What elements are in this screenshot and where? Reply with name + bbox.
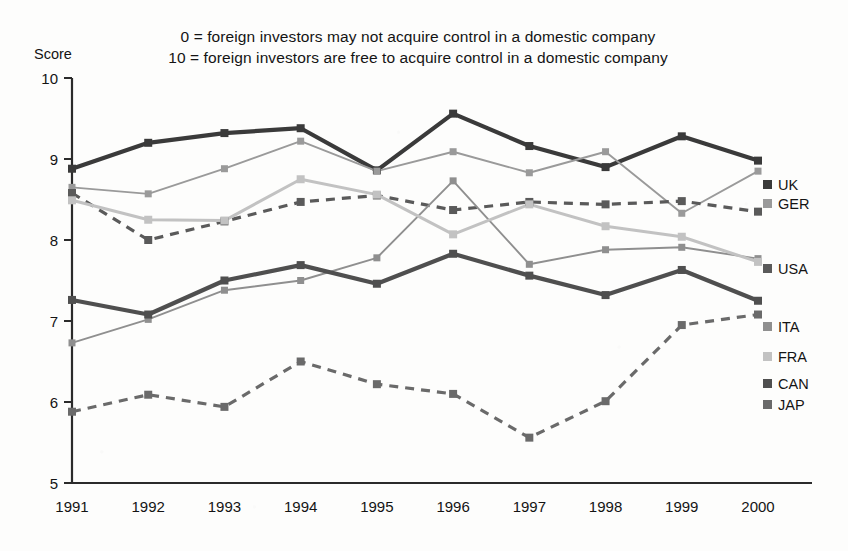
y-tick-label: 5: [50, 475, 58, 492]
marker-can-1992: [144, 311, 152, 319]
marker-uk-1992: [144, 139, 152, 147]
marker-ger-1995: [373, 168, 380, 175]
series-line-can: [72, 254, 758, 315]
series-label-ita: ITA: [778, 319, 800, 335]
marker-usa-1998: [602, 200, 610, 208]
marker-ita-1993: [221, 287, 228, 294]
legend-swatch-fra: [763, 352, 772, 361]
marker-uk-1998: [602, 163, 610, 171]
marker-ita-1995: [373, 254, 380, 261]
marker-ger-1999: [678, 210, 685, 217]
marker-ita-1996: [450, 177, 457, 184]
marker-fra-1993: [220, 217, 228, 225]
marker-uk-1991: [68, 165, 76, 173]
x-tick-label: 1999: [665, 498, 698, 515]
x-tick-label: 1994: [284, 498, 317, 515]
marker-uk-1994: [297, 124, 305, 132]
x-tick-label: 1992: [132, 498, 165, 515]
marker-ita-1994: [297, 277, 304, 284]
series-label-fra: FRA: [778, 349, 807, 365]
marker-uk-1999: [678, 132, 686, 140]
legend-swatch-ger: [763, 199, 772, 208]
marker-ger-1996: [450, 148, 457, 155]
marker-uk-1996: [449, 110, 457, 118]
marker-fra-1998: [602, 222, 610, 230]
marker-ger-1998: [602, 148, 609, 155]
series-label-usa: USA: [778, 261, 808, 277]
marker-fra-1999: [678, 233, 686, 241]
marker-uk-2000: [754, 157, 762, 165]
y-tick-label: 8: [50, 232, 58, 249]
x-tick-label: 1993: [208, 498, 241, 515]
marker-can-2000: [754, 297, 762, 305]
marker-jap-1999: [678, 321, 686, 329]
chart-page: 0 = foreign investors may not acquire co…: [0, 0, 848, 551]
marker-jap-1997: [525, 434, 533, 442]
x-tick-label: 1991: [55, 498, 88, 515]
marker-fra-1991: [68, 196, 76, 204]
marker-ger-1992: [145, 190, 152, 197]
marker-usa-1994: [297, 198, 305, 206]
marker-fra-1995: [373, 191, 381, 199]
x-tick-label: 1997: [513, 498, 546, 515]
line-chart: 1098765 19911992199319941995199619971998…: [0, 0, 848, 551]
marker-jap-2000: [754, 311, 762, 319]
marker-ger-1997: [526, 169, 533, 176]
marker-can-1995: [373, 280, 381, 288]
marker-can-1996: [449, 250, 457, 258]
x-tick-label: 1995: [360, 498, 393, 515]
marker-uk-1993: [220, 129, 228, 137]
legend-swatch-usa: [763, 264, 772, 273]
marker-can-1998: [602, 291, 610, 299]
x-tick-label: 1998: [589, 498, 622, 515]
legend-swatch-uk: [763, 180, 772, 189]
marker-usa-1999: [678, 197, 686, 205]
marker-jap-1993: [220, 403, 228, 411]
marker-can-1993: [220, 277, 228, 285]
marker-ger-1993: [221, 165, 228, 172]
y-tick-label: 9: [50, 151, 58, 168]
marker-jap-1994: [297, 358, 305, 366]
marker-fra-2000: [754, 258, 762, 266]
marker-fra-1994: [297, 175, 305, 183]
y-axis-ticks: 1098765: [41, 70, 72, 492]
marker-ger-2000: [755, 168, 762, 175]
series-label-can: CAN: [778, 376, 809, 392]
series-label-ger: GER: [778, 196, 809, 212]
marker-usa-1991: [68, 189, 76, 197]
x-tick-label: 1996: [436, 498, 469, 515]
marker-ita-1999: [678, 244, 685, 251]
series-line-ger: [72, 141, 758, 213]
y-tick-label: 10: [41, 70, 58, 87]
marker-jap-1998: [602, 397, 610, 405]
marker-usa-1992: [144, 236, 152, 244]
x-axis-ticks: 1991199219931994199519961997199819992000: [55, 498, 774, 515]
series-line-jap: [72, 315, 758, 438]
marker-jap-1995: [373, 380, 381, 388]
x-tick-label: 2000: [741, 498, 774, 515]
marker-ita-1998: [602, 246, 609, 253]
marker-fra-1997: [525, 200, 533, 208]
marker-can-1991: [68, 296, 76, 304]
series-labels: UKGERUSAITAFRACANJAP: [763, 177, 809, 413]
marker-can-1994: [297, 261, 305, 269]
y-tick-label: 7: [50, 313, 58, 330]
marker-usa-1996: [449, 206, 457, 214]
marker-ita-1991: [69, 339, 76, 346]
marker-ger-1994: [297, 138, 304, 145]
marker-fra-1996: [449, 230, 457, 238]
series-line-ita: [72, 181, 758, 343]
marker-jap-1992: [144, 391, 152, 399]
series-label-jap: JAP: [778, 397, 805, 413]
marker-can-1997: [525, 272, 533, 280]
marker-can-1999: [678, 266, 686, 274]
marker-ita-1997: [526, 261, 533, 268]
marker-usa-2000: [754, 208, 762, 216]
data-series-lines: [72, 114, 758, 438]
marker-uk-1997: [525, 142, 533, 150]
marker-jap-1991: [68, 408, 76, 416]
marker-jap-1996: [449, 390, 457, 398]
y-tick-label: 6: [50, 394, 58, 411]
legend-swatch-can: [763, 379, 772, 388]
legend-swatch-jap: [763, 400, 772, 409]
